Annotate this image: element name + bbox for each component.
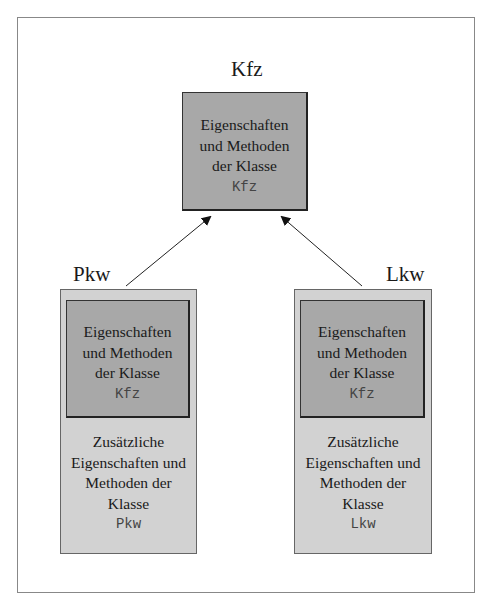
class-label-lkw: Lkw <box>386 262 425 287</box>
class-label-pkw: Pkw <box>73 262 110 287</box>
text-line: Methoden der <box>295 473 431 494</box>
own-members-text: Zusätzliche Eigenschaften und Methoden d… <box>61 432 196 535</box>
class-ref: Kfz <box>183 177 306 198</box>
text-line: Eigenschaften <box>183 115 306 136</box>
text-line: Methoden der <box>61 473 196 494</box>
text-line: Zusätzliche <box>61 432 196 453</box>
text-line: Eigenschaften und <box>295 453 431 474</box>
text-line: und Methoden <box>183 136 306 157</box>
text-line: Klasse <box>61 494 196 515</box>
arrow-pkw-to-kfz <box>126 217 210 286</box>
text-line: der Klasse <box>67 363 188 384</box>
inherited-kfz-box: Eigenschaften und Methoden der Klasse Kf… <box>66 300 190 418</box>
own-members-text: Zusätzliche Eigenschaften und Methoden d… <box>295 432 431 535</box>
class-box-kfz: Eigenschaften und Methoden der Klasse Kf… <box>182 92 308 211</box>
text-line: und Methoden <box>67 343 188 364</box>
class-label-kfz: Kfz <box>231 57 262 82</box>
class-ref: Kfz <box>301 384 423 405</box>
text-line: Eigenschaften <box>301 322 423 343</box>
text-line: Klasse <box>295 494 431 515</box>
text-line: Zusätzliche <box>295 432 431 453</box>
class-box-pkw: Eigenschaften und Methoden der Klasse Kf… <box>60 289 197 554</box>
text-line: und Methoden <box>301 343 423 364</box>
class-box-lkw: Eigenschaften und Methoden der Klasse Kf… <box>294 289 432 554</box>
arrow-lkw-to-kfz <box>282 217 362 286</box>
inherited-kfz-box: Eigenschaften und Methoden der Klasse Kf… <box>300 300 425 418</box>
class-ref: Pkw <box>61 514 196 535</box>
class-ref: Lkw <box>295 514 431 535</box>
text-line: Eigenschaften und <box>61 453 196 474</box>
text-line: der Klasse <box>183 156 306 177</box>
text-line: Eigenschaften <box>67 322 188 343</box>
class-ref: Kfz <box>67 384 188 405</box>
text-line: der Klasse <box>301 363 423 384</box>
